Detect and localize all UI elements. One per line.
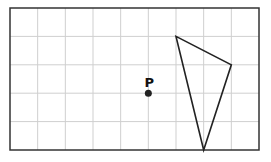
point-p	[145, 90, 152, 97]
grid-lines	[10, 8, 259, 150]
grid-border	[10, 8, 259, 150]
grid-diagram: P	[0, 0, 271, 162]
point-p-label: P	[145, 75, 155, 90]
